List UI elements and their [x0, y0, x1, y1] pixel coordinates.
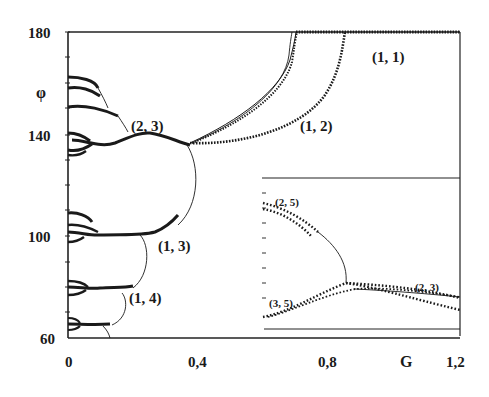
curve-1-3	[68, 215, 178, 235]
label-1-3: (1, 3)	[158, 238, 191, 255]
chart: 180 140 100 60 φ 0 0,4 0,8 G 1,2	[0, 0, 489, 397]
semicircle-1-4	[112, 293, 126, 325]
y-axis-label: φ	[36, 84, 46, 102]
label-1-4: (1, 4)	[129, 290, 162, 307]
label-1-1: (1, 1)	[372, 49, 405, 66]
curve-1-4	[68, 286, 133, 288]
label-2-3: (2, 3)	[131, 118, 164, 135]
y-tick-100: 100	[28, 229, 51, 245]
cascade-top-2	[68, 87, 100, 96]
semicircle-1-3	[133, 235, 147, 288]
inset-label-3-5: (3, 5)	[269, 297, 293, 310]
inset-label-2-3: (2, 3)	[415, 281, 439, 294]
inset: (2, 5) (3, 5) (2, 3)	[262, 178, 460, 336]
cascade-15-2	[68, 326, 80, 330]
curve-inner-thin	[190, 32, 296, 143]
cascade-14-2	[68, 290, 86, 295]
cascade-13-1	[68, 213, 92, 222]
cascade-mid-2	[68, 144, 92, 151]
x-tick-0: 0	[65, 354, 73, 370]
y-tick-60: 60	[40, 331, 55, 347]
x-axis-label: G	[400, 353, 413, 370]
y-tick-140: 140	[28, 128, 51, 144]
cascade-13-3	[68, 237, 84, 242]
x-tick-1-2: 1,2	[446, 354, 465, 370]
x-tick-0-4: 0,4	[188, 354, 207, 370]
cascade-top-3	[68, 106, 118, 116]
cascade-15-1	[68, 318, 80, 323]
x-tick-0-8: 0,8	[318, 354, 337, 370]
inset-label-2-5: (2, 5)	[275, 196, 299, 209]
semicircle-2-3	[178, 145, 196, 225]
y-tick-180: 180	[28, 25, 51, 41]
label-1-2: (1, 2)	[300, 118, 333, 135]
semicircle-1-5	[103, 326, 110, 338]
cascade-top-link-2	[118, 116, 128, 132]
cascade-top-link-1	[98, 88, 108, 108]
